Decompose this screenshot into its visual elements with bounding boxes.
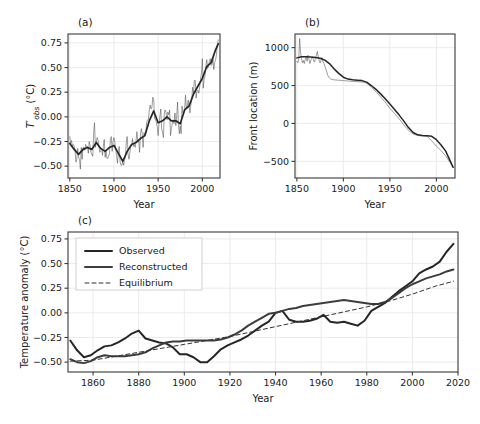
ytick-label: −500	[263, 156, 289, 167]
panel-b-xlabel: Year	[363, 199, 386, 210]
xtick-label: 1920	[218, 377, 242, 388]
series-smoothed	[297, 57, 453, 168]
panel-c-xlabel: Year	[251, 393, 274, 404]
figure-container: (a)1850190019502000−0.50−0.250.000.250.5…	[0, 0, 480, 424]
panel-a-ticks: 1850190019502000−0.50−0.250.000.250.500.…	[33, 37, 215, 194]
panel-a-gridlines	[68, 34, 220, 178]
panel-a: (a)1850190019502000−0.50−0.250.000.250.5…	[25, 16, 220, 210]
ytick-label: −0.25	[33, 332, 62, 343]
xtick-label: 1900	[331, 183, 355, 194]
xtick-label: 1950	[378, 183, 402, 194]
panel-a-label: (a)	[78, 16, 93, 28]
xtick-label: 1980	[355, 377, 379, 388]
panel-b-ylabel: Front location (m)	[248, 61, 259, 150]
panel-a-axes-frame	[68, 34, 220, 178]
panel-a-ylabel: T′obs(°C)	[25, 84, 41, 129]
panel-b-gridlines	[295, 34, 455, 178]
ytick-label: 0.75	[41, 37, 62, 48]
ytick-label: 0.75	[41, 233, 62, 244]
panel-c-ylabel: Temperature anomaly (°C)	[19, 236, 30, 370]
ytick-label: 500	[271, 80, 289, 91]
panel-b-series	[297, 39, 453, 168]
ytick-label: 0.50	[41, 258, 62, 269]
xtick-label: 1850	[58, 183, 82, 194]
legend-label-observed: Observed	[119, 245, 165, 256]
ytick-label: 1000	[265, 42, 289, 53]
ytick-label: 0.25	[41, 282, 62, 293]
xtick-label: 2000	[424, 183, 448, 194]
ytick-label: 0.25	[41, 86, 62, 97]
xtick-label: 1940	[263, 377, 287, 388]
panel-b-axes-frame	[295, 34, 455, 178]
series-smoothed	[70, 44, 218, 161]
ytick-label: −0.50	[33, 356, 62, 367]
panel-b-ticks: 1850190019502000−50005001000	[263, 42, 449, 194]
xtick-label: 2000	[190, 183, 214, 194]
panel-b: (b)1850190019502000−50005001000YearFront…	[248, 16, 455, 210]
panel-c: (c)186018801900192019401960198020002020−…	[19, 214, 470, 404]
legend-label-reconstructed: Reconstructed	[119, 261, 188, 272]
xtick-label: 1860	[81, 377, 105, 388]
ytick-label: 0.00	[41, 307, 62, 318]
ytick-label: 0.00	[41, 111, 62, 122]
ylabel-units: (°C)	[25, 84, 36, 104]
multi-panel-figure: (a)1850190019502000−0.50−0.250.000.250.5…	[0, 0, 480, 424]
panel-a-series	[70, 40, 218, 169]
ytick-label: −0.25	[33, 136, 62, 147]
ytick-label: 0	[283, 118, 289, 129]
panel-c-legend: ObservedReconstructedEquilibrium	[76, 238, 202, 290]
xtick-label: 1900	[172, 377, 196, 388]
xtick-label: 1950	[146, 183, 170, 194]
xtick-label: 2000	[400, 377, 424, 388]
xtick-label: 1850	[285, 183, 309, 194]
ylabel-subscript: obs	[32, 106, 41, 119]
panel-c-label: (c)	[78, 214, 92, 226]
ytick-label: 0.50	[41, 62, 62, 73]
xtick-label: 1880	[127, 377, 151, 388]
panel-b-label: (b)	[305, 16, 320, 28]
legend-label-equilibrium: Equilibrium	[119, 277, 173, 288]
ytick-label: −0.50	[33, 160, 62, 171]
panel-a-xlabel: Year	[132, 199, 155, 210]
xtick-label: 2020	[446, 377, 470, 388]
xtick-label: 1960	[309, 377, 333, 388]
xtick-label: 1900	[102, 183, 126, 194]
